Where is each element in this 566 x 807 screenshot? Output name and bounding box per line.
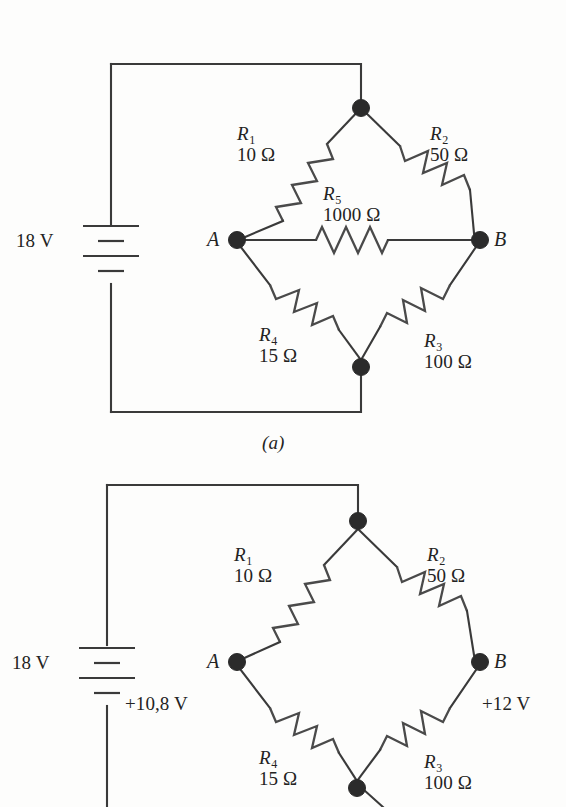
node-b-B	[472, 654, 489, 671]
node-a-bottom	[353, 359, 370, 376]
component-value-r4-b: 15 Ω	[259, 769, 297, 790]
resistor-b-r1	[273, 565, 330, 642]
source-label-b: 18 V	[12, 653, 50, 674]
node-label-B-b: B	[494, 651, 506, 673]
lead-b-A-to-r4	[240, 669, 270, 708]
component-name-r2-a: R2	[430, 124, 468, 145]
component-value-r2-b: 50 Ω	[427, 566, 465, 587]
node-b-bottom	[349, 780, 366, 797]
lead-b-r2-to-B	[467, 611, 474, 655]
component-label-r3-a: R3 100 Ω	[424, 331, 472, 372]
resistor-a-r5	[316, 227, 388, 253]
lead-b-B-to-r3	[450, 670, 476, 708]
component-value-r5-a: 1000 Ω	[323, 205, 380, 226]
wire-b-top	[107, 485, 358, 521]
component-label-r5-a: R5 1000 Ω	[323, 184, 380, 225]
component-name-r5-a: R5	[323, 184, 380, 205]
node-potential-A-b: +10,8 V	[125, 694, 188, 715]
resistor-a-r3	[380, 285, 450, 327]
component-label-r4-a: R4 15 Ω	[259, 325, 297, 366]
lead-b-top-to-r1	[324, 529, 358, 565]
component-label-r4-b: R4 15 Ω	[259, 748, 297, 789]
lead-b-r4-to-bottom	[339, 753, 357, 781]
component-name-r4-a: R4	[259, 325, 297, 346]
source-label-a: 18 V	[16, 231, 54, 252]
circuit-diagram-page: 18 V R1 10 Ω R2 50 Ω R5 1000 Ω R4 15 Ω R…	[0, 0, 566, 807]
component-name-r3-a: R3	[424, 331, 472, 352]
component-label-r2-b: R2 50 Ω	[427, 545, 465, 586]
lead-a-r4-to-bottom	[339, 330, 361, 360]
resistor-a-r4	[270, 285, 339, 330]
lead-a-B-to-r3	[450, 247, 476, 285]
component-value-r1-a: 10 Ω	[237, 145, 275, 166]
lead-b-r3-to-bottom	[357, 750, 380, 781]
node-b-top	[350, 513, 367, 530]
node-a-top	[353, 100, 370, 117]
component-label-r3-b: R3 100 Ω	[424, 752, 472, 793]
resistor-b-r4	[270, 708, 339, 753]
component-name-r2-b: R2	[427, 545, 465, 566]
lead-a-A-to-r4	[240, 246, 270, 285]
lead-a-r1-to-A	[245, 221, 283, 237]
lead-b-r1-to-A	[242, 642, 280, 659]
node-a-A	[229, 232, 246, 249]
component-label-r1-a: R1 10 Ω	[237, 124, 275, 165]
wire-a-top	[111, 64, 361, 100]
resistor-b-r3	[380, 708, 450, 750]
component-value-r2-a: 50 Ω	[430, 145, 468, 166]
component-name-r1-a: R1	[237, 124, 275, 145]
component-name-r3-b: R3	[424, 752, 472, 773]
node-label-A-b: A	[207, 651, 219, 673]
component-name-r1-b: R1	[234, 545, 272, 566]
lead-a-r3-to-bottom	[361, 327, 380, 360]
lead-b-bottom-stub	[364, 790, 383, 807]
node-potential-B-b: +12 V	[482, 694, 530, 715]
lead-a-r2-to-B	[470, 190, 474, 233]
node-label-B-a: B	[494, 229, 506, 251]
node-a-B	[472, 232, 489, 249]
component-label-r2-a: R2 50 Ω	[430, 124, 468, 165]
component-value-r3-a: 100 Ω	[424, 352, 472, 373]
component-value-r3-b: 100 Ω	[424, 773, 472, 794]
node-label-A-a: A	[207, 229, 219, 251]
lead-b-top-to-r2	[358, 529, 397, 567]
component-value-r1-b: 10 Ω	[234, 566, 272, 587]
wire-a-bottom	[111, 375, 361, 412]
component-name-r4-b: R4	[259, 748, 297, 769]
circuit-schematic-svg	[0, 0, 566, 807]
node-b-A	[229, 654, 246, 671]
component-value-r4-a: 15 Ω	[259, 346, 297, 367]
component-label-r1-b: R1 10 Ω	[234, 545, 272, 586]
panel-caption-a: (a)	[262, 433, 284, 454]
